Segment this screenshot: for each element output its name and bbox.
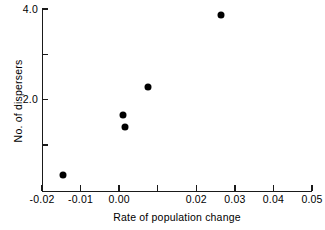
x-tick-label: 0.03 [224, 194, 245, 205]
data-point [121, 123, 128, 130]
x-tick-label: 0.02 [186, 194, 207, 205]
x-tick-mark [118, 185, 119, 191]
data-point [60, 172, 67, 179]
x-tick-mark [311, 185, 312, 191]
x-axis-line [42, 191, 312, 192]
x-tick-mark [196, 185, 197, 191]
x-axis-title: Rate of population change [42, 211, 312, 223]
x-tick-label: 0.05 [301, 194, 322, 205]
x-tick-mark [273, 185, 274, 191]
x-tick-label: 0.00 [109, 194, 130, 205]
y-tick-mark [42, 144, 48, 145]
x-tick-mark [41, 185, 42, 191]
data-point [120, 112, 127, 119]
scatter-chart: 4.02.0 -0.02-0.010.000.020.030.040.05 Ra… [0, 0, 325, 230]
y-tick-label: 4.0 [23, 4, 38, 15]
x-tick-mark [80, 185, 81, 191]
x-tick-mark [157, 185, 158, 191]
data-point [145, 84, 152, 91]
y-tick-label: 2.0 [23, 94, 38, 105]
data-point [217, 12, 224, 19]
x-tick-label: -0.02 [30, 194, 55, 205]
y-tick-mark [42, 54, 48, 55]
y-tick-mark [42, 8, 48, 9]
x-tick-label: -0.01 [68, 194, 93, 205]
y-axis-title: No. of dispersers [12, 31, 24, 171]
y-tick-mark [42, 99, 48, 100]
x-tick-mark [234, 185, 235, 191]
x-tick-label: 0.04 [263, 194, 284, 205]
